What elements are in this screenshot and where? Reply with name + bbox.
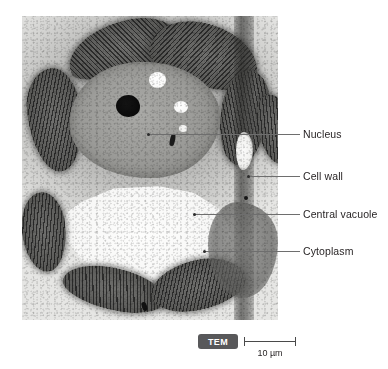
leader-dot-cell-wall — [247, 175, 250, 178]
label-central-vacuole: Central vacuole — [303, 208, 377, 220]
scale-bar — [244, 337, 296, 346]
leader-dot-central-vacuole — [193, 213, 196, 216]
tem-technique-badge: TEM — [198, 334, 238, 349]
electron-micrograph-image — [22, 16, 278, 320]
micrograph-content — [22, 16, 278, 320]
film-grain-texture — [22, 16, 278, 320]
leader-line-cytoplasm — [204, 251, 300, 252]
label-nucleus: Nucleus — [303, 128, 342, 140]
leader-line-central-vacuole — [194, 214, 300, 215]
scale-bar-label: 10 µm — [240, 348, 300, 358]
scale-bar-cap-left — [244, 337, 245, 346]
scale-bar-rule — [244, 341, 296, 342]
label-cytoplasm: Cytoplasm — [303, 245, 354, 257]
micrograph-figure: Nucleus Cell wall Central vacuole Cytopl… — [0, 0, 388, 369]
leader-line-cell-wall — [248, 176, 300, 177]
leader-dot-cytoplasm — [203, 250, 206, 253]
scale-bar-cap-right — [295, 337, 296, 346]
label-cell-wall: Cell wall — [303, 170, 343, 182]
leader-line-nucleus — [148, 134, 300, 135]
leader-dot-nucleus — [147, 133, 150, 136]
